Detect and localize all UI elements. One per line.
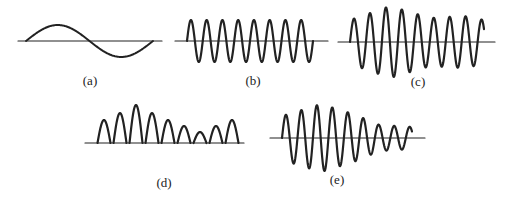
panel-a-label: (a) xyxy=(83,73,97,89)
panel-d-waveform xyxy=(85,105,244,143)
panel-d-rectified-signal xyxy=(98,105,239,143)
waveform-figure xyxy=(0,0,506,200)
panel-a-waveform xyxy=(18,25,162,57)
panel-b-label: (b) xyxy=(245,73,260,89)
panel-e-waveform xyxy=(270,105,425,171)
panel-b-waveform xyxy=(175,20,328,62)
panel-c-waveform xyxy=(338,7,495,76)
panel-c-label: (c) xyxy=(411,74,425,90)
panel-e-label: (e) xyxy=(330,172,344,188)
panel-d-label: (d) xyxy=(156,175,171,191)
